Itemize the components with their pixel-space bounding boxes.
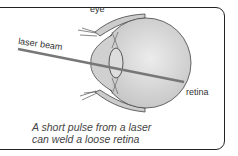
caption: A short pulse from a laser can weld a lo… bbox=[32, 121, 151, 145]
eye-label: eye bbox=[90, 4, 105, 14]
retina-label: retina bbox=[186, 87, 209, 97]
caption-line-1: A short pulse from a laser bbox=[32, 121, 151, 133]
eyelashes-lower bbox=[80, 91, 97, 100]
eyelashes-upper bbox=[78, 28, 97, 36]
caption-line-2: can weld a loose retina bbox=[32, 133, 151, 145]
lens bbox=[109, 48, 123, 78]
